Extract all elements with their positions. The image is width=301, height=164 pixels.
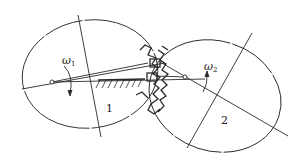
gear-1-label: 1: [106, 102, 113, 115]
omega-2-label: ω2: [204, 60, 217, 74]
omega-1-label: ω1: [62, 54, 75, 68]
gear-1-pivot: [50, 80, 54, 84]
gear-2-label: 2: [221, 114, 228, 127]
gear-1-major-axis: [22, 63, 165, 89]
gear-2-minor-axis: [187, 33, 252, 148]
gear-2-pivot: [183, 75, 187, 79]
gear-1-pitch-curve: [15, 11, 165, 137]
diagram-canvas: ω1 ω2 1 2: [0, 0, 301, 164]
